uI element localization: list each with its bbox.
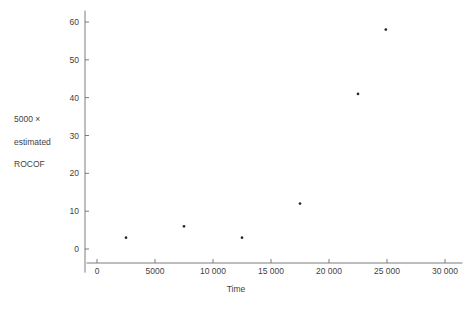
y-axis-title: 5000 × estimated ROCOF <box>14 103 76 170</box>
tick-labels-group: 0500010 00015 00020 00025 00030 00001020… <box>70 17 459 276</box>
y-tick-label: 50 <box>70 55 80 65</box>
y-axis-title-line-3: ROCOF <box>14 159 45 169</box>
data-point <box>384 28 387 31</box>
x-tick-label: 30 000 <box>432 266 458 276</box>
data-point <box>241 236 244 239</box>
x-tick-label: 15 000 <box>258 266 284 276</box>
data-point <box>357 93 360 96</box>
y-tick-label: 60 <box>70 17 80 27</box>
x-tick-label: 20 000 <box>316 266 342 276</box>
x-axis-title: Time <box>0 284 472 294</box>
x-tick-label: 5000 <box>146 266 165 276</box>
y-tick-label: 0 <box>74 244 79 254</box>
data-points-group <box>125 28 388 239</box>
scatter-plot-figure: 0500010 00015 00020 00025 00030 00001020… <box>0 0 472 311</box>
y-axis-title-line-1: 5000 × <box>14 114 40 124</box>
y-axis-title-line-2: estimated <box>14 137 51 147</box>
x-tick-label: 0 <box>95 266 100 276</box>
axes-group <box>85 11 462 273</box>
data-point <box>125 236 128 239</box>
data-point <box>299 202 302 205</box>
ticks-group <box>85 22 445 263</box>
data-point <box>183 225 186 228</box>
y-tick-label: 10 <box>70 206 80 216</box>
x-tick-label: 10 000 <box>200 266 226 276</box>
y-tick-label: 40 <box>70 93 80 103</box>
x-tick-label: 25 000 <box>374 266 400 276</box>
